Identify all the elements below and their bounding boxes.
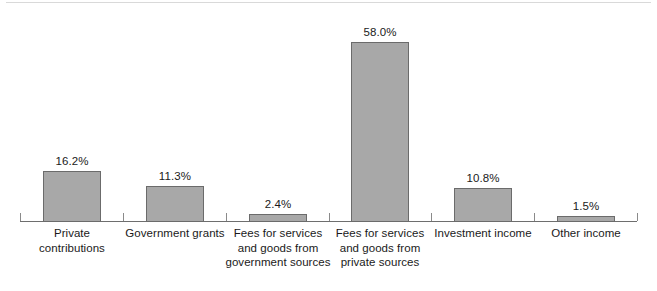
- category-label-line: and goods from: [322, 241, 438, 256]
- bar-value-fees-private-sources: 58.0%: [340, 26, 420, 39]
- category-label-line: Private: [27, 226, 117, 241]
- category-label-line: private sources: [322, 255, 438, 270]
- bar-fees-private-sources: [351, 42, 409, 222]
- category-label-line: Other income: [536, 226, 636, 241]
- axis-tick-6: [637, 213, 638, 221]
- x-axis-baseline: [20, 221, 637, 222]
- bar-investment-income: [454, 188, 512, 222]
- bar-other-income: [557, 216, 615, 222]
- category-label-government-grants: Government grants: [125, 226, 225, 241]
- bar-value-government-grants: 11.3%: [135, 170, 215, 183]
- category-label-fees-government-sources: Fees for services and goods from governm…: [220, 226, 336, 270]
- bar-value-fees-government-sources: 2.4%: [238, 198, 318, 211]
- bar-value-other-income: 1.5%: [546, 200, 626, 213]
- category-label-private-contributions: Private contributions: [27, 226, 117, 255]
- axis-tick-2: [226, 213, 227, 221]
- axis-tick-0: [20, 213, 21, 221]
- bar-government-grants: [146, 186, 204, 222]
- bar-private-contributions: [43, 171, 101, 222]
- category-label-fees-private-sources: Fees for services and goods from private…: [322, 226, 438, 270]
- category-label-line: contributions: [27, 241, 117, 256]
- category-label-line: Government grants: [125, 226, 225, 241]
- bar-value-investment-income: 10.8%: [443, 172, 523, 185]
- axis-tick-4: [431, 213, 432, 221]
- category-label-line: government sources: [220, 255, 336, 270]
- category-label-investment-income: Investment income: [428, 226, 538, 241]
- category-label-line: and goods from: [220, 241, 336, 256]
- axis-tick-1: [123, 213, 124, 221]
- category-label-other-income: Other income: [536, 226, 636, 241]
- axis-tick-5: [534, 213, 535, 221]
- category-label-line: Investment income: [428, 226, 538, 241]
- bar-chart-figure: 16.2% Private contributions 11.3% Govern…: [0, 0, 657, 291]
- plot-area: 16.2% Private contributions 11.3% Govern…: [0, 0, 657, 291]
- axis-tick-3: [329, 213, 330, 221]
- bar-fees-government-sources: [249, 214, 307, 222]
- bar-value-private-contributions: 16.2%: [32, 155, 112, 168]
- category-label-line: Fees for services: [322, 226, 438, 241]
- category-label-line: Fees for services: [220, 226, 336, 241]
